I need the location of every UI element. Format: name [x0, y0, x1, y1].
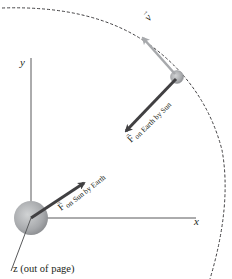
orbit-path: [2, 8, 225, 279]
z-axis-label: z (out of page): [13, 263, 75, 275]
y-axis-label: y: [19, 56, 25, 68]
velocity-arrow: [143, 38, 175, 74]
orbit-diagram: y x z (out of page) v → F → on Earth by …: [0, 0, 232, 279]
x-axis-label: x: [193, 215, 199, 227]
force-on-earth-subscript: on Earth by Sun: [132, 100, 173, 141]
